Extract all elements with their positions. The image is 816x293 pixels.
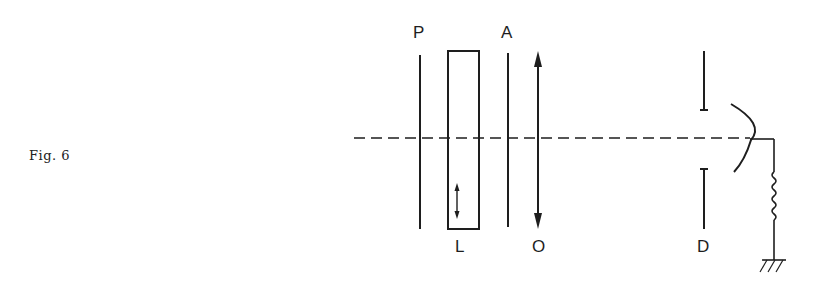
optical-setup-diagram: P L A O D [0,0,816,293]
lens-label: O [532,237,545,256]
cell-arrow-up-icon [455,183,460,191]
analyzer: A [501,23,513,227]
polarizer: P [413,23,424,229]
lens: O [532,51,545,256]
figure-caption: Fig. 6 [29,148,70,163]
aperture: D [697,51,709,256]
load-resistor-zigzag [772,172,776,220]
lens-arrow-up-icon [534,51,542,67]
aperture-label: D [697,237,709,256]
sample-cell: L [448,51,479,256]
sample-cell-label: L [455,237,464,256]
lens-arrow-down-icon [534,213,542,229]
ground-icon [760,260,786,272]
analyzer-label: A [501,23,513,42]
polarizer-label: P [413,23,424,42]
sample-cell-box [448,51,479,229]
cell-arrow-down-icon [455,211,460,219]
optical-setup-figure: Fig. 6 P L A O [0,0,816,293]
